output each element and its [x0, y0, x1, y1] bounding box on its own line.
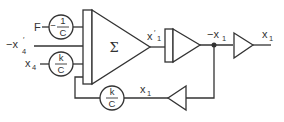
- svg-text:4: 4: [32, 63, 36, 72]
- integrator: [165, 29, 200, 62]
- svg-text:1: 1: [157, 34, 161, 43]
- output-label: x: [262, 28, 268, 40]
- feedback-inverter: [168, 86, 186, 110]
- sigma-symbol: Σ: [109, 40, 118, 55]
- output-inverter: [234, 33, 253, 58]
- svg-text:1: 1: [222, 34, 226, 43]
- svg-text:C: C: [58, 64, 65, 75]
- integrator-output-label: −x: [207, 28, 219, 40]
- input-x4-label: x: [25, 57, 31, 69]
- svg-text:k: k: [59, 52, 64, 63]
- summer-input-bar: [83, 10, 92, 84]
- summer-output-label: x: [147, 30, 153, 42]
- coefficient-numerator: 1: [60, 15, 65, 26]
- analog-computer-diagram: F − 1 C −x ′ 4 x 4 k C Σ x ′ 1: [0, 0, 284, 122]
- input-neg-x4-prime: −x ′ 4: [6, 35, 83, 56]
- svg-text:1: 1: [269, 34, 273, 43]
- svg-text:1: 1: [147, 89, 151, 98]
- feedback-label: x: [140, 83, 146, 95]
- svg-text:k: k: [110, 86, 115, 97]
- svg-text:′: ′: [154, 28, 156, 37]
- input-x4: x 4 k C: [25, 52, 83, 76]
- input-neg-x4-prime-label: −x: [6, 38, 18, 50]
- summing-amplifier: Σ: [83, 10, 150, 84]
- svg-text:′: ′: [23, 35, 25, 44]
- integrator-triangle: [173, 29, 200, 62]
- input-f-label: F: [34, 21, 41, 33]
- coefficient-sign: −: [50, 20, 56, 31]
- svg-text:C: C: [109, 98, 116, 109]
- coefficient-denominator: C: [60, 27, 67, 38]
- input-f: F − 1 C: [34, 15, 83, 39]
- integrator-bar: [165, 29, 173, 62]
- summer-triangle: [92, 10, 150, 84]
- svg-text:4: 4: [22, 47, 26, 56]
